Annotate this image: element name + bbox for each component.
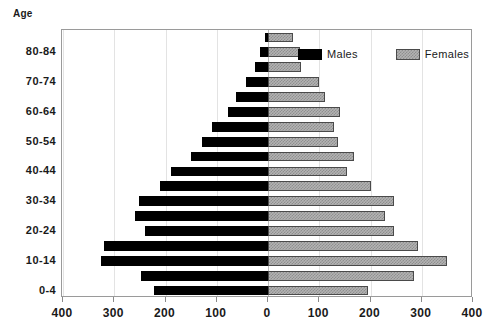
y-tick-30-34: 30-34 [26,194,56,206]
bar-female-85+ [268,33,293,43]
x-tick-400-left: 400 [51,306,72,320]
legend-entry-males: Males [298,48,358,60]
plot-area [61,29,472,297]
x-tick-mark [370,297,371,302]
bar-female-25-29 [268,211,385,221]
x-tick-mark [421,297,422,302]
bar-female-65-69 [268,92,325,102]
bar-female-10-14 [268,256,447,266]
bar-row [62,238,471,253]
bar-row [62,75,471,90]
bar-female-20-24 [268,226,394,236]
bar-male-35-39 [160,181,268,191]
y-tick-0-4: 0-4 [39,284,56,296]
bar-row [62,194,471,209]
bar-female-70-74 [268,77,319,87]
x-tick-100-left: 100 [205,306,226,320]
bar-male-5-9 [141,271,268,281]
bar-female-50-54 [268,137,338,147]
y-tick-60-64: 60-64 [26,105,56,117]
x-tick-300-right: 300 [410,306,431,320]
y-tick-20-24: 20-24 [26,224,56,236]
x-tick-100-right: 100 [308,306,329,320]
bar-male-40-44 [171,167,268,177]
bar-female-75-79 [268,62,301,72]
bar-row [62,90,471,105]
bar-female-45-49 [268,152,354,162]
bar-female-60-64 [268,107,340,117]
bar-female-5-9 [268,271,414,281]
x-tick-mark [267,297,268,302]
x-axis-tick-labels: 4003002001000100200300400 [0,300,481,326]
bar-row [62,253,471,268]
bar-female-0-4 [268,286,368,296]
x-tick-mark [62,297,63,302]
y-axis-tick-labels: 80-8470-7460-6450-5440-4430-3420-2410-14… [0,0,56,329]
x-tick-0-center: 0 [263,306,270,320]
bar-row [62,60,471,75]
bar-male-25-29 [135,211,268,221]
bar-female-35-39 [268,181,371,191]
x-tick-400-right: 400 [461,306,482,320]
bar-row [62,104,471,119]
bar-male-80-84 [260,47,268,57]
bar-male-75-79 [255,62,268,72]
x-tick-200-left: 200 [154,306,175,320]
bar-male-30-34 [139,196,268,206]
y-tick-10-14: 10-14 [26,254,56,266]
bar-male-65-69 [236,92,268,102]
legend-label-males: Males [327,48,358,60]
bar-row [62,179,471,194]
bar-male-70-74 [246,77,268,87]
bar-female-80-84 [268,47,300,57]
legend-label-females: Females [425,48,469,60]
bar-male-15-19 [104,241,268,251]
legend-swatch-females-icon [396,49,420,60]
bar-female-40-44 [268,167,347,177]
bar-male-45-49 [191,152,268,162]
x-tick-mark [318,297,319,302]
bar-male-0-4 [154,286,268,296]
bar-row [62,209,471,224]
bar-row [62,30,471,45]
y-tick-80-84: 80-84 [26,45,56,57]
x-tick-mark [216,297,217,302]
y-tick-70-74: 70-74 [26,75,56,87]
bar-male-55-59 [212,122,268,132]
x-tick-300-left: 300 [103,306,124,320]
bar-row [62,283,471,297]
legend-entry-females: Females [396,48,469,60]
x-tick-200-right: 200 [359,306,380,320]
bar-row [62,164,471,179]
bar-male-50-54 [202,137,268,147]
x-tick-mark [165,297,166,302]
bar-female-15-19 [268,241,418,251]
y-tick-40-44: 40-44 [26,164,56,176]
bar-row [62,224,471,239]
bar-male-20-24 [145,226,268,236]
y-tick-50-54: 50-54 [26,135,56,147]
bar-row [62,119,471,134]
legend-swatch-males-icon [298,49,322,60]
chart-legend: Males Females [298,48,469,60]
x-tick-mark [472,297,473,302]
bar-male-60-64 [228,107,268,117]
x-tick-mark [113,297,114,302]
bar-female-55-59 [268,122,334,132]
bar-row [62,134,471,149]
bar-row [62,268,471,283]
bar-row [62,149,471,164]
bar-male-10-14 [101,256,268,266]
bar-female-30-34 [268,196,394,206]
